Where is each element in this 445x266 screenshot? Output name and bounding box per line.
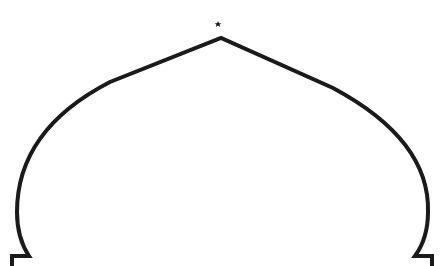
star-icon [215,21,222,27]
dome-illustration [0,0,445,266]
dome-outline-svg [0,0,445,266]
crescent-icon [221,14,232,31]
dome-outline [12,38,432,266]
